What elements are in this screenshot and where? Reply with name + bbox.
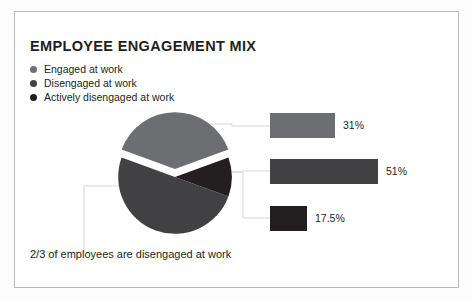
chart-caption: 2/3 of employees are disengaged at work (30, 248, 231, 260)
legend-label: Engaged at work (44, 63, 123, 76)
legend-label: Actively disengaged at work (44, 91, 174, 104)
screenshot-root: EMPLOYEE ENGAGEMENT MIX Engaged at work … (0, 0, 473, 301)
legend-item-engaged: Engaged at work (30, 63, 174, 76)
legend-item-actively-disengaged: Actively disengaged at work (30, 91, 174, 104)
legend-item-disengaged: Disengaged at work (30, 77, 174, 90)
legend-dot-icon (30, 66, 37, 73)
legend-dot-icon (30, 94, 37, 101)
bar-actively-disengaged (270, 206, 307, 231)
bar-value-engaged: 31% (343, 119, 364, 131)
legend-label: Disengaged at work (44, 77, 137, 90)
bar-disengaged (270, 159, 378, 184)
bar-engaged (270, 113, 335, 138)
page-title: EMPLOYEE ENGAGEMENT MIX (30, 38, 256, 54)
bar-value-actively-disengaged: 17.5% (315, 212, 345, 224)
chart-legend: Engaged at work Disengaged at work Activ… (30, 63, 174, 105)
bar-value-disengaged: 51% (386, 165, 407, 177)
legend-dot-icon (30, 80, 37, 87)
